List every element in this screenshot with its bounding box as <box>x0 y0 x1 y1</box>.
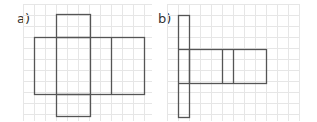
grid-a <box>23 4 152 121</box>
tall-strip <box>179 16 190 118</box>
horizontal-rectangle <box>190 50 267 84</box>
bottom-square <box>57 95 91 117</box>
diagram-canvas <box>0 0 317 122</box>
